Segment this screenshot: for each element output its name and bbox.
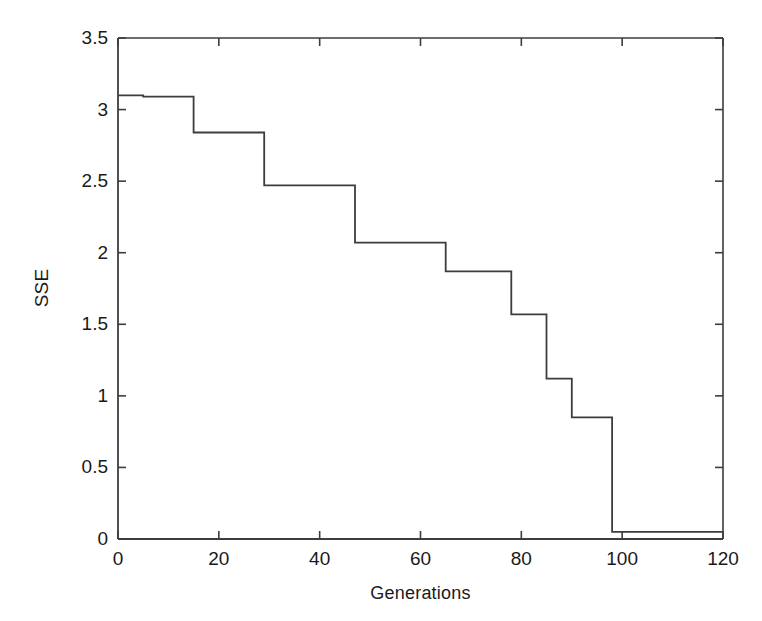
plot-area xyxy=(0,0,762,621)
y-tick-label: 1.5 xyxy=(48,313,108,335)
x-tick-label: 20 xyxy=(179,548,259,570)
x-axis-title: Generations xyxy=(118,583,723,604)
sse-step-line xyxy=(118,95,723,532)
x-tick-label: 120 xyxy=(683,548,762,570)
y-tick-label: 0 xyxy=(48,528,108,550)
y-tick-label: 2.5 xyxy=(48,170,108,192)
y-tick-label: 1 xyxy=(48,385,108,407)
chart-figure: SSE 00.511.522.533.5 020406080100120 Gen… xyxy=(0,0,762,621)
y-tick-label: 3.5 xyxy=(48,27,108,49)
x-tick-label: 0 xyxy=(78,548,158,570)
tick-marks xyxy=(118,38,723,539)
x-tick-label: 60 xyxy=(381,548,461,570)
y-tick-label: 2 xyxy=(48,242,108,264)
x-tick-label: 80 xyxy=(481,548,561,570)
axes-lines xyxy=(118,38,723,539)
y-axis-tick-labels: 00.511.522.533.5 xyxy=(44,0,108,621)
x-tick-label: 40 xyxy=(280,548,360,570)
y-tick-label: 0.5 xyxy=(48,456,108,478)
x-axis-tick-labels: 020406080100120 xyxy=(0,548,762,578)
x-tick-label: 100 xyxy=(582,548,662,570)
y-tick-label: 3 xyxy=(48,99,108,121)
